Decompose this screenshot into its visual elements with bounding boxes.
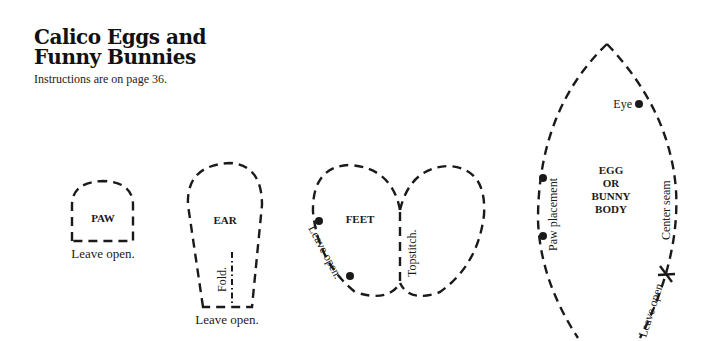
eye-dot xyxy=(635,100,643,108)
body-label-line-1: EGG xyxy=(599,164,624,176)
pattern-sheet: PAW Leave open. EAR Fold. Leave open. FE… xyxy=(0,0,713,341)
eye-label: Eye xyxy=(613,97,632,111)
body-label-line-2: OR xyxy=(603,177,621,189)
paw-outline xyxy=(72,181,133,241)
paw-placement-label: Paw placement xyxy=(546,177,560,251)
paw-leave-open-label: Leave open. xyxy=(71,246,135,261)
ear-label: EAR xyxy=(213,214,237,226)
feet-leave-open-end-dot xyxy=(346,272,354,280)
feet-leave-open-label: Leave open. xyxy=(305,223,345,281)
paw-label: PAW xyxy=(91,212,115,224)
feet-left-outline xyxy=(313,165,400,296)
ear-fold-label: Fold. xyxy=(215,267,229,292)
body-leave-open-label: Leave open. xyxy=(636,279,667,339)
center-seam-label: Center seam xyxy=(659,180,673,240)
feet-label: FEET xyxy=(346,213,375,225)
ear-leave-open-label: Leave open. xyxy=(195,312,259,327)
topstitch-label: Topstitch. xyxy=(405,230,419,278)
body-label-line-4: BODY xyxy=(595,203,627,215)
body-label-line-3: BUNNY xyxy=(591,190,630,202)
